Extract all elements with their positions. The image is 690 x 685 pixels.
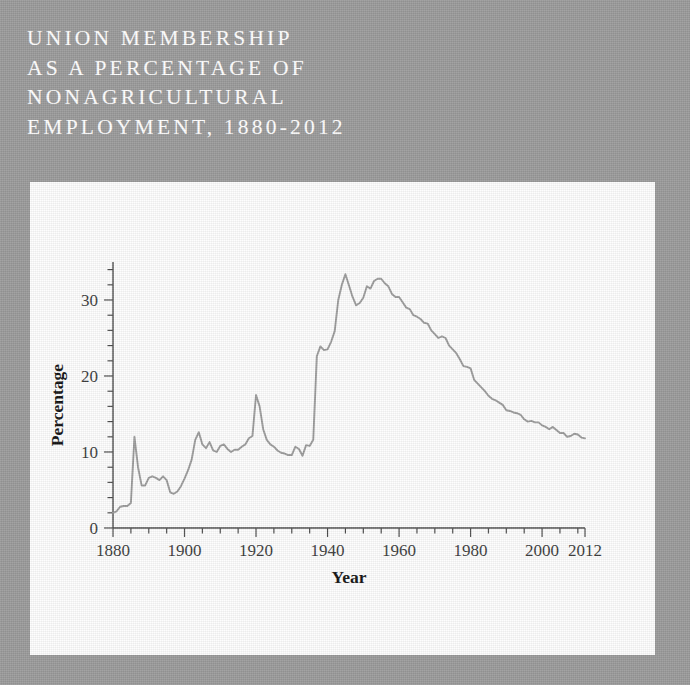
y-tick-label: 0 [90,519,99,538]
chart-panel: 0102030 18801900192019401960198020002012… [30,182,655,655]
y-axis-title: Percentage [47,364,67,447]
x-axis-title: Year [332,567,367,587]
y-tick-label: 10 [81,443,98,462]
y-tick-label: 30 [81,291,98,310]
x-tick-label: 2012 [568,541,602,560]
x-tick-label: 1880 [96,541,130,560]
x-tick-label: 1940 [311,541,345,560]
x-tick-label: 1900 [168,541,202,560]
figure-title: UNION MEMBERSHIP AS A PERCENTAGE OF NONA… [27,24,587,142]
title-line-2: AS A PERCENTAGE OF [27,54,587,84]
x-tick-label: 2000 [525,541,559,560]
title-line-4: EMPLOYMENT, 1880-2012 [27,113,587,143]
x-tick-label: 1960 [382,541,416,560]
y-tick-label: 20 [81,367,98,386]
series-path [113,274,585,513]
x-tick-label: 1920 [239,541,273,560]
x-tick-label: 1980 [454,541,488,560]
title-line-3: NONAGRICULTURAL [27,83,587,113]
data-series [113,274,585,513]
figure-page: UNION MEMBERSHIP AS A PERCENTAGE OF NONA… [0,0,690,685]
line-chart: 0102030 18801900192019401960198020002012… [30,182,655,655]
y-axis: 0102030 [81,262,113,538]
x-axis: 18801900192019401960198020002012 [96,528,602,560]
title-line-1: UNION MEMBERSHIP [27,24,587,54]
